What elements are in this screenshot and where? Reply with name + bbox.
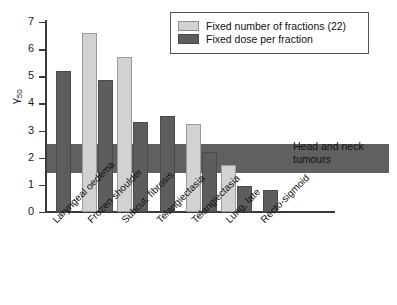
y-tick-label: 6 xyxy=(14,43,34,54)
reference-band-annotation: Head and neck tumours xyxy=(293,140,395,167)
annotation-line-2: tumours xyxy=(293,153,395,166)
y-tick-mark xyxy=(39,103,45,104)
y-tick-label: 2 xyxy=(14,152,34,163)
legend-swatch-dark-icon xyxy=(178,34,199,44)
legend-swatch-light-icon xyxy=(178,21,199,31)
y-tick-mark xyxy=(39,76,45,77)
y-axis-title: γ50 xyxy=(9,89,24,104)
chart-legend: Fixed number of fractions (22) Fixed dos… xyxy=(170,12,369,54)
y-tick-mark xyxy=(39,49,45,50)
y-axis-title-subscript: 50 xyxy=(15,89,24,98)
y-tick-label: 5 xyxy=(14,70,34,81)
y-axis-line xyxy=(45,20,47,213)
chart-root: 01234567 γ50 Laryngeal oedemaFrozen shou… xyxy=(0,0,397,305)
y-tick-mark xyxy=(39,185,45,186)
legend-label-fixed-number-of-fractions: Fixed number of fractions (22) xyxy=(206,20,346,32)
y-tick-mark xyxy=(39,158,45,159)
legend-label-fixed-dose-per-fraction: Fixed dose per fraction xyxy=(206,33,313,45)
annotation-line-1: Head and neck xyxy=(293,140,395,153)
y-tick-label: 3 xyxy=(14,125,34,136)
y-tick-label: 1 xyxy=(14,179,34,190)
bar-fixed-dose-per-fraction xyxy=(56,71,71,212)
y-tick-mark xyxy=(39,22,45,23)
y-tick-mark xyxy=(39,131,45,132)
y-tick-mark xyxy=(39,212,45,213)
legend-item-fixed-number-of-fractions: Fixed number of fractions (22) xyxy=(178,20,361,32)
y-tick-label: 7 xyxy=(14,16,34,27)
legend-item-fixed-dose-per-fraction: Fixed dose per fraction xyxy=(178,33,361,45)
y-tick-label: 0 xyxy=(14,206,34,217)
y-axis-title-symbol: γ xyxy=(9,98,21,104)
